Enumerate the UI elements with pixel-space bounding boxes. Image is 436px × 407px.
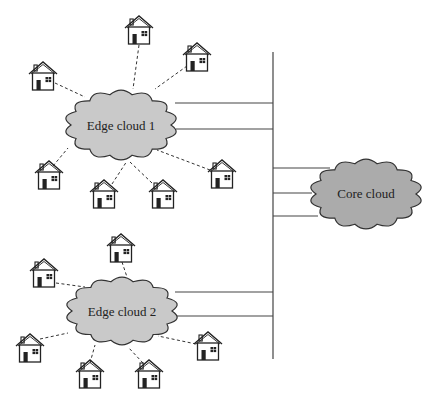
edge-cloud-2-label: Edge cloud 2 xyxy=(88,304,157,319)
house-icon xyxy=(29,62,57,90)
network-diagram: Edge cloud 1 Edge cloud 2 Core cloud xyxy=(0,0,436,407)
house-icon xyxy=(208,160,236,188)
house-icon xyxy=(194,332,222,360)
house-icon xyxy=(76,360,104,388)
house-icon xyxy=(107,234,135,262)
house-icon xyxy=(125,16,153,44)
house-icon xyxy=(135,360,163,388)
house-icon xyxy=(149,180,177,208)
house-icon xyxy=(16,334,44,362)
core-cloud-label: Core cloud xyxy=(337,186,395,201)
house-icon xyxy=(183,43,211,71)
house-icon xyxy=(35,161,63,189)
edge-cloud-1-label: Edge cloud 1 xyxy=(87,118,156,133)
house-icon xyxy=(30,259,58,287)
house-icon xyxy=(90,180,118,208)
diagram-canvas: Edge cloud 1 Edge cloud 2 Core cloud xyxy=(0,0,436,407)
